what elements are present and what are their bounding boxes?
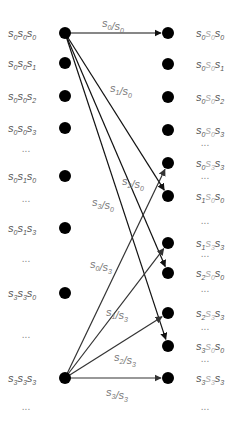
left-node xyxy=(59,222,71,234)
subscript: 3 xyxy=(220,244,224,251)
trellis-diagram: s0/s0s1/s0s2/s0s3/s0s0/s3s1/s3s2/s3s3/s3… xyxy=(0,0,231,425)
left-column: s0s0s0s0s0s1s0s0s2s0s0s3...s0s1s0...s0s1… xyxy=(8,27,71,412)
state-label: s0s0s3 xyxy=(196,124,224,138)
state-label: s0s0s0 xyxy=(8,27,36,41)
ellipsis: ... xyxy=(22,193,30,204)
state-label: s0s0s2 xyxy=(196,91,224,105)
edge-label: s1/s0 xyxy=(110,82,132,99)
left-node xyxy=(59,287,71,299)
subscript: 0 xyxy=(220,34,224,41)
edge-label: s0/s3 xyxy=(90,258,112,275)
transition-edge xyxy=(65,33,164,190)
right-node xyxy=(162,340,174,352)
right-node xyxy=(162,307,174,319)
left-node xyxy=(59,372,71,384)
edge-label: s2/s3 xyxy=(114,351,136,368)
ellipsis: ... xyxy=(22,253,30,264)
subscript: 0 xyxy=(110,206,114,213)
state-label: s2s0s0 xyxy=(196,267,224,281)
subscript: 3 xyxy=(124,316,128,323)
right-node xyxy=(162,372,174,384)
ellipsis: ... xyxy=(201,248,209,259)
left-node xyxy=(59,90,71,102)
subscript: 0 xyxy=(32,177,36,184)
transition-edge xyxy=(65,33,165,267)
right-node xyxy=(162,27,174,39)
state-label: s3s3s0 xyxy=(8,287,36,301)
state-label: s0s1s0 xyxy=(8,170,36,184)
subscript: 0 xyxy=(220,197,224,204)
right-column: s0s0s0s0s0s1s0s0s2s0s0s3...s0s3s3...s1s0… xyxy=(162,27,224,412)
state-label: s3s0s0 xyxy=(196,340,224,354)
right-node xyxy=(162,237,174,249)
ellipsis: ... xyxy=(201,137,209,148)
right-node xyxy=(162,267,174,279)
subscript: 3 xyxy=(220,314,224,321)
ellipsis: ... xyxy=(22,143,30,154)
subscript: 3 xyxy=(32,129,36,136)
left-node xyxy=(59,170,71,182)
right-node xyxy=(162,190,174,202)
subscript: 3 xyxy=(132,361,136,368)
left-node xyxy=(59,57,71,69)
ellipsis: ... xyxy=(201,283,209,294)
ellipsis: ... xyxy=(22,329,30,340)
state-label: s0s3s3 xyxy=(196,157,224,171)
state-label: s0s0s3 xyxy=(8,122,36,136)
subscript: 3 xyxy=(220,164,224,171)
subscript: 2 xyxy=(219,98,224,105)
subscript: 0 xyxy=(140,185,144,192)
state-label: s0s0s0 xyxy=(196,27,224,41)
subscript: 3 xyxy=(220,379,224,386)
right-node xyxy=(162,58,174,70)
subscript: 0 xyxy=(32,294,36,301)
ellipsis: ... xyxy=(201,401,209,412)
state-label: s2s3s3 xyxy=(196,307,224,321)
edge-label: s0/s0 xyxy=(102,17,124,34)
edge-label: s2/s0 xyxy=(122,175,144,192)
subscript: 0 xyxy=(120,27,124,34)
transition-edge xyxy=(65,33,166,339)
subscript: 0 xyxy=(220,274,224,281)
ellipsis: ... xyxy=(201,215,209,226)
state-label: s0s0s1 xyxy=(8,57,36,71)
right-node xyxy=(162,157,174,169)
subscript: 0 xyxy=(128,92,132,99)
subscript: 0 xyxy=(32,34,36,41)
subscript: 0 xyxy=(220,347,224,354)
subscript: 3 xyxy=(108,268,112,275)
right-node xyxy=(162,91,174,103)
ellipsis: ... xyxy=(22,401,30,412)
left-node xyxy=(59,122,71,134)
subscript: 1 xyxy=(32,64,36,71)
subscript: 3 xyxy=(32,229,36,236)
ellipsis: ... xyxy=(201,321,209,332)
state-label: s1s0s0 xyxy=(196,190,224,204)
edge-label: s3/s0 xyxy=(92,196,114,213)
ellipsis: ... xyxy=(201,353,209,364)
state-label: s0s0s2 xyxy=(8,90,36,104)
subscript: 3 xyxy=(124,396,128,403)
state-label: s0s1s3 xyxy=(8,222,36,236)
left-node xyxy=(59,27,71,39)
subscript: 3 xyxy=(220,131,224,138)
ellipsis: ... xyxy=(201,170,209,181)
state-label: s3s3s3 xyxy=(8,372,36,386)
subscript: 3 xyxy=(32,379,36,386)
subscript: 1 xyxy=(220,65,224,72)
right-node xyxy=(162,124,174,136)
subscript: 2 xyxy=(31,97,36,104)
state-label: s0s0s1 xyxy=(196,58,224,72)
edge-label: s3/s3 xyxy=(106,386,128,403)
state-label: s3s3s3 xyxy=(196,372,224,386)
